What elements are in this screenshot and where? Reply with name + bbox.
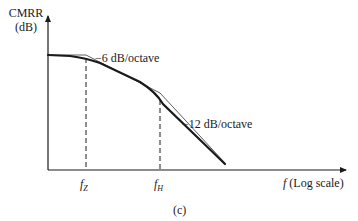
figure-caption: (c) <box>173 204 186 216</box>
tick-label-fh: fH <box>154 178 163 193</box>
asymptote-line <box>48 55 225 163</box>
y-axis-label: CMRR (dB) <box>6 7 46 33</box>
slope1-annotation: −6 dB/octave <box>95 52 159 64</box>
cmrr-curve <box>48 55 225 164</box>
fh-sub: H <box>157 184 163 193</box>
tick-label-fz: fZ <box>80 178 88 193</box>
y-axis-label-line2: (dB) <box>6 21 46 33</box>
x-axis-label-rest: (Log scale) <box>286 176 343 190</box>
slope2-annotation: −12 dB/octave <box>182 118 252 130</box>
x-axis-label: f (Log scale) <box>283 177 344 189</box>
fz-sub: Z <box>83 184 87 193</box>
y-axis-label-line1: CMRR <box>6 7 46 19</box>
